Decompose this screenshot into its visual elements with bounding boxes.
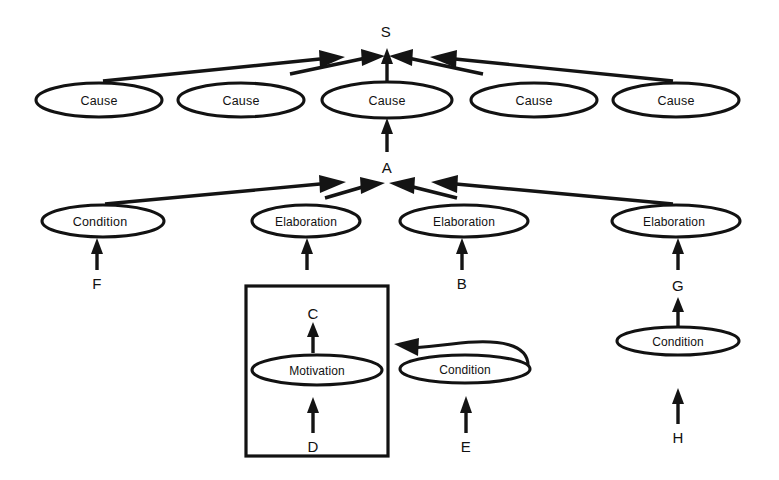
node-cause-3-label: Cause xyxy=(368,94,405,108)
edge-motivation-to-c xyxy=(307,322,319,353)
edge-g-to-elaboration3 xyxy=(672,238,684,270)
node-c-label: C xyxy=(307,305,318,322)
edge-b-to-elaboration2 xyxy=(456,238,468,270)
node-condition-5[interactable]: Condition xyxy=(400,355,530,383)
node-motivation[interactable]: Motivation xyxy=(252,355,382,385)
node-elaboration-3[interactable]: Elaboration xyxy=(612,205,740,237)
edge-cause1-to-s xyxy=(103,50,345,81)
node-elaboration-2[interactable]: Elaboration xyxy=(400,205,528,237)
diagram-canvas: S Cause xyxy=(0,0,779,480)
node-f-label: F xyxy=(92,275,101,292)
node-cause-2[interactable]: Cause xyxy=(178,83,304,117)
edge-f-to-condition1 xyxy=(91,238,103,270)
node-cause-1-label: Cause xyxy=(80,94,117,108)
node-condition-5-label: Condition xyxy=(439,363,491,377)
node-cause-4[interactable]: Cause xyxy=(471,83,597,117)
node-condition-1-label: Condition xyxy=(73,215,128,229)
node-d-label: D xyxy=(307,438,318,455)
node-cause-1[interactable]: Cause xyxy=(36,83,162,117)
edge-c-to-elaboration1 xyxy=(301,238,313,270)
edge-e-to-condition5 xyxy=(460,396,472,433)
node-condition-6-label: Condition xyxy=(652,335,704,349)
edge-condition6-to-g xyxy=(672,297,684,326)
edge-cause5-to-s xyxy=(430,50,673,81)
node-cause-4-label: Cause xyxy=(515,94,552,108)
node-condition-6[interactable]: Condition xyxy=(617,327,739,355)
node-a-label: A xyxy=(382,159,392,176)
node-cause-3[interactable]: Cause xyxy=(322,82,452,118)
edge-d-to-motivation xyxy=(307,397,319,433)
node-motivation-label: Motivation xyxy=(289,364,345,378)
node-elaboration-1[interactable]: Elaboration xyxy=(252,205,360,237)
node-condition-1[interactable]: Condition xyxy=(42,205,164,237)
node-elaboration-3-label: Elaboration xyxy=(643,215,705,229)
node-cause-2-label: Cause xyxy=(222,94,259,108)
node-g-label: G xyxy=(672,277,684,294)
edge-h-to-condition6 xyxy=(672,388,684,424)
node-cause-5-label: Cause xyxy=(657,94,694,108)
node-e-label: E xyxy=(461,438,471,455)
edge-condition1-to-a xyxy=(105,175,346,204)
node-h-label: H xyxy=(672,429,683,446)
node-s-label: S xyxy=(381,23,391,40)
edge-a-to-cause3 xyxy=(381,118,393,152)
node-elaboration-1-label: Elaboration xyxy=(275,215,337,229)
edge-elaboration3-to-a xyxy=(431,175,673,204)
node-b-label: B xyxy=(457,275,467,292)
rst-diagram: S Cause xyxy=(0,0,779,480)
node-cause-5[interactable]: Cause xyxy=(613,83,739,117)
edge-cause3-to-s xyxy=(381,48,393,82)
node-elaboration-2-label: Elaboration xyxy=(433,215,495,229)
